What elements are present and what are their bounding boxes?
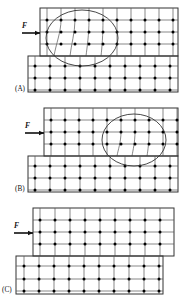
friction-slab-diagram: F (A)	[0, 0, 191, 303]
panel-b-force-label: F	[25, 121, 30, 130]
figure-container: F (A)	[0, 0, 191, 303]
panel-c-caption: (C)	[2, 286, 12, 294]
panel-c-force-label: F	[14, 221, 19, 230]
panel-a-caption: (A)	[15, 85, 26, 93]
panel-a-force-label: F	[22, 21, 27, 30]
panel-b-caption: (B)	[15, 185, 25, 193]
